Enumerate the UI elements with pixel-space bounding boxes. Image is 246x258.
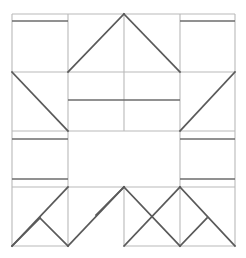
diagram-canvas (0, 0, 246, 258)
framing-diagram (0, 0, 246, 258)
